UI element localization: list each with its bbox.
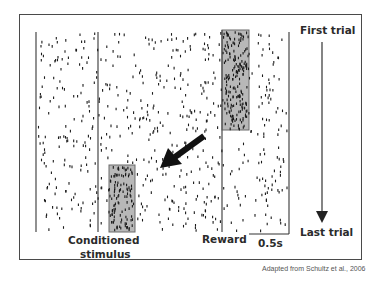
spike-ticks — [39, 31, 288, 232]
figure-caption: Adapted from Schultz et al., 2006 — [262, 265, 366, 272]
conditioned-stimulus-label-line1: Conditioned — [68, 234, 139, 246]
spike-raster-plot — [0, 0, 383, 282]
conditioned-stimulus-label-line2: stimulus — [80, 248, 131, 260]
reward-label: Reward — [202, 233, 247, 245]
shift-arrow-icon — [160, 136, 204, 168]
scale-bar-label: 0.5s — [258, 237, 283, 249]
trial-direction-arrow-icon — [316, 42, 328, 223]
last-trial-label: Last trial — [300, 226, 353, 238]
first-trial-label: First trial — [300, 24, 355, 36]
